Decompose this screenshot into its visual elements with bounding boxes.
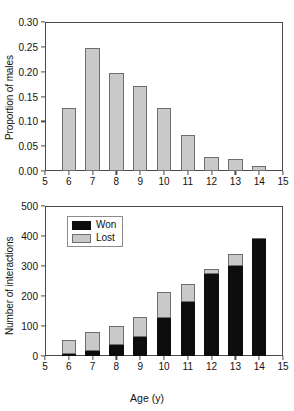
y-tick-label: 0.25 (19, 41, 38, 52)
x-tick-label: 11 (183, 361, 193, 372)
bar-segment-won (62, 354, 76, 356)
y-tick-label: 0.05 (19, 141, 38, 152)
bar (252, 166, 266, 171)
legend-label-won: Won (96, 220, 116, 230)
y-tick-mark (41, 46, 45, 47)
x-tick-label: 10 (158, 176, 169, 187)
chart-panel-interactions: Number of interactions 0100200300400500 … (0, 196, 294, 411)
y-tick-label: 100 (21, 321, 38, 332)
y-tick-label: 0.15 (19, 91, 38, 102)
y-tick-label: 200 (21, 291, 38, 302)
legend-item-lost: Lost (72, 233, 116, 243)
x-tick-mark (163, 171, 164, 175)
y-tick-label: 400 (21, 231, 38, 242)
chart-panel-proportion: Proportion of males 0.000.050.100.150.20… (0, 0, 294, 196)
y-tick-mark (41, 235, 45, 236)
x-tick-mark (187, 356, 188, 360)
bar-segment-lost (133, 317, 147, 337)
x-tick-mark (116, 171, 117, 175)
x-tick-mark (44, 356, 45, 360)
x-tick-label: 5 (42, 361, 48, 372)
bar-segment-lost (85, 332, 99, 351)
y-tick-label: 500 (21, 201, 38, 212)
x-tick-mark (116, 356, 117, 360)
x-tick-mark (140, 171, 141, 175)
x-tick-mark (259, 171, 260, 175)
x-tick-label: 11 (183, 176, 193, 187)
x-tick-mark (211, 171, 212, 175)
bar-segment-lost (109, 326, 123, 346)
stacked-bar (85, 332, 99, 356)
x-tick-label: 7 (90, 176, 96, 187)
y-tick-label: 0 (32, 351, 38, 362)
bar-segment-won (109, 345, 123, 356)
x-tick-mark (68, 356, 69, 360)
x-tick-mark (211, 356, 212, 360)
stacked-bar (109, 326, 123, 356)
y-tick-label: 0.00 (19, 166, 38, 177)
bar (181, 135, 195, 171)
y-tick-mark (41, 146, 45, 147)
y-tick-label: 0.10 (19, 116, 38, 127)
x-tick-mark (187, 171, 188, 175)
bar (204, 157, 218, 171)
y-tick-mark (41, 21, 45, 22)
legend-swatch-lost-icon (72, 234, 91, 243)
x-tick-mark (92, 171, 93, 175)
bar-segment-won (204, 274, 218, 356)
bar-segment-won (181, 302, 195, 356)
x-tick-label: 9 (137, 176, 143, 187)
x-tick-label: 13 (230, 176, 241, 187)
stacked-bar (252, 238, 266, 356)
x-tick-label: 8 (114, 361, 120, 372)
y-tick-mark (41, 265, 45, 266)
y-tick-mark (41, 121, 45, 122)
y-tick-label: 0.20 (19, 66, 38, 77)
bar (109, 73, 123, 171)
legend-label-lost: Lost (96, 233, 115, 243)
bar-segment-lost (157, 292, 171, 318)
bar (85, 48, 99, 171)
bar (157, 108, 171, 171)
bar (62, 108, 76, 171)
stacked-bar (204, 269, 218, 356)
x-tick-label: 14 (254, 361, 265, 372)
x-tick-label: 8 (114, 176, 120, 187)
x-tick-label: 15 (277, 361, 288, 372)
x-tick-label: 6 (66, 361, 72, 372)
x-tick-mark (92, 356, 93, 360)
bar-segment-won (157, 318, 171, 356)
bar (228, 159, 242, 171)
x-tick-mark (282, 356, 283, 360)
bar-segment-lost (62, 340, 76, 354)
x-tick-label: 15 (277, 176, 288, 187)
bar-segment-won (252, 239, 266, 356)
stacked-bar (133, 317, 147, 356)
x-tick-mark (259, 356, 260, 360)
x-tick-label: 12 (206, 361, 217, 372)
x-tick-label: 7 (90, 361, 96, 372)
figure: Proportion of males 0.000.050.100.150.20… (0, 0, 294, 411)
y-tick-mark (41, 71, 45, 72)
x-tick-label: 9 (137, 361, 143, 372)
x-tick-label: 5 (42, 176, 48, 187)
bar-segment-won (133, 337, 147, 356)
bar-segment-won (85, 351, 99, 356)
x-tick-mark (163, 356, 164, 360)
x-tick-mark (140, 356, 141, 360)
legend: Won Lost (67, 216, 123, 247)
y-tick-label: 300 (21, 261, 38, 272)
x-tick-mark (235, 356, 236, 360)
stacked-bar (181, 284, 195, 356)
x-tick-label: 10 (158, 361, 169, 372)
x-axis-title: Age (y) (0, 392, 294, 404)
x-tick-mark (68, 171, 69, 175)
y-axis-label-top: Proportion of males (4, 30, 18, 165)
stacked-bar (157, 292, 171, 356)
bar (133, 86, 147, 171)
y-axis-label-bottom: Number of interactions (4, 210, 18, 362)
y-tick-mark (41, 325, 45, 326)
x-tick-label: 12 (206, 176, 217, 187)
y-tick-label: 0.30 (19, 17, 38, 28)
bar-segment-won (228, 266, 242, 356)
